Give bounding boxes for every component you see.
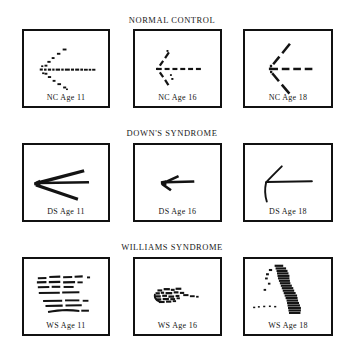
panel-label-ws-age-11: WS Age 11	[24, 321, 108, 330]
panel-nc-age-16: NC Age 16	[133, 29, 222, 108]
panel-nc-age-11: NC Age 11	[22, 29, 110, 108]
panel-label-ds-age-16: DS Age 16	[135, 207, 220, 216]
panel-row-normal-control: NC Age 11	[0, 29, 344, 109]
group-title-williams-syndrome: WILLIAMS SYNDROME	[0, 242, 344, 252]
panel-row-downs-syndrome: DS Age 11 DS Age 16	[0, 143, 344, 223]
panel-label-ws-age-18: WS Age 18	[245, 321, 331, 330]
panel-ws-age-11: WS Age 11	[22, 257, 110, 336]
panel-label-nc-age-11: NC Age 11	[24, 93, 108, 102]
panel-ds-age-16: DS Age 16	[133, 143, 222, 222]
group-title-normal-control: NORMAL CONTROL	[0, 15, 344, 25]
panel-row-williams-syndrome: WS Age 11	[0, 257, 344, 337]
panel-label-ws-age-16: WS Age 16	[135, 321, 220, 330]
panel-label-nc-age-16: NC Age 16	[135, 93, 220, 102]
panel-ds-age-18: DS Age 18	[243, 143, 333, 222]
figure-drawings-of-an-arrow: NORMAL CONTROL	[0, 0, 344, 348]
panel-ws-age-16: WS Age 16	[133, 257, 222, 336]
panel-ds-age-11: DS Age 11	[22, 143, 110, 222]
panel-nc-age-18: NC Age 18	[243, 29, 333, 108]
panel-label-ds-age-18: DS Age 18	[245, 207, 331, 216]
panel-ws-age-18: WS Age 18	[243, 257, 333, 336]
group-title-downs-syndrome: DOWN'S SYNDROME	[0, 128, 344, 138]
panel-label-nc-age-18: NC Age 18	[245, 93, 331, 102]
panel-label-ds-age-11: DS Age 11	[24, 207, 108, 216]
